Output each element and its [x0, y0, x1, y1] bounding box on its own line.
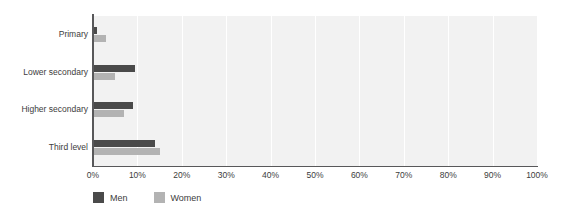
category-group: [93, 129, 537, 167]
plot-area: [93, 16, 537, 166]
category-axis-labels: PrimaryLower secondaryHigher secondaryTh…: [0, 16, 88, 166]
x-tick-label: 60%: [339, 170, 379, 180]
category-group: [93, 91, 537, 129]
bar-men: [93, 65, 135, 72]
bar-men: [93, 102, 133, 109]
x-tick-label: 70%: [384, 170, 424, 180]
category-label: Higher secondary: [2, 104, 88, 114]
x-tick-label: 20%: [162, 170, 202, 180]
legend-swatch-women: [154, 192, 165, 203]
legend-label: Men: [110, 193, 128, 203]
category-label: Third level: [2, 142, 88, 152]
gridline: [537, 16, 538, 166]
x-tick-label: 100%: [517, 170, 557, 180]
x-tick-label: 30%: [206, 170, 246, 180]
bar-women: [93, 73, 115, 80]
x-tick-label: 50%: [295, 170, 335, 180]
bar-chart: PrimaryLower secondaryHigher secondaryTh…: [0, 0, 572, 217]
x-axis-tick-labels: 0%10%20%30%40%50%60%70%80%90%100%: [0, 170, 572, 184]
x-tick-label: 40%: [251, 170, 291, 180]
bar-women: [93, 148, 160, 155]
bar-men: [93, 140, 155, 147]
legend-label: Women: [171, 193, 202, 203]
x-axis-line: [92, 166, 538, 167]
category-label: Lower secondary: [2, 67, 88, 77]
category-group: [93, 54, 537, 92]
legend-item-men[interactable]: Men: [93, 192, 128, 203]
bar-women: [93, 110, 124, 117]
y-axis-line: [92, 14, 94, 167]
x-tick-label: 90%: [473, 170, 513, 180]
x-tick-label: 0%: [73, 170, 113, 180]
category-group: [93, 16, 537, 54]
x-tick-label: 80%: [428, 170, 468, 180]
category-label: Primary: [2, 29, 88, 39]
bar-women: [93, 35, 106, 42]
legend: MenWomen: [93, 192, 201, 203]
legend-item-women[interactable]: Women: [154, 192, 202, 203]
legend-swatch-men: [93, 192, 104, 203]
x-tick-label: 10%: [117, 170, 157, 180]
